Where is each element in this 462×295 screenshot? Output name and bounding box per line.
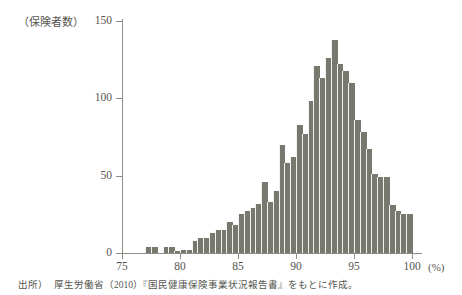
source-note-text: 厚生労働省（2010）『国民健康保険事業状況報告書』をもとに作成。	[54, 280, 358, 290]
x-tick-85	[238, 254, 239, 259]
source-note-label: 出所）	[18, 280, 48, 290]
x-axis-line	[118, 253, 422, 254]
source-note: 出所）厚生労働省（2010）『国民健康保険事業状況報告書』をもとに作成。	[18, 277, 358, 291]
x-axis-unit-label: (%)	[428, 261, 445, 273]
x-tick-100	[412, 254, 413, 259]
histogram-figure: （保険者数） 050100150 7580859095100 (%) 出所）厚生…	[0, 0, 462, 295]
x-tick-label-95: 95	[334, 261, 374, 273]
y-tick-label-50: 50	[70, 170, 112, 182]
x-tick-label-100: 100	[392, 261, 432, 273]
x-tick-95	[354, 254, 355, 259]
x-tick-label-85: 85	[218, 261, 258, 273]
y-tick-label-150: 150	[70, 15, 112, 27]
histogram-bar	[151, 247, 158, 253]
x-tick-75	[122, 254, 123, 259]
x-tick-label-75: 75	[102, 261, 142, 273]
y-tick-label-0: 0	[70, 247, 112, 259]
y-tick-label-100: 100	[70, 92, 112, 104]
plot-area	[122, 21, 418, 253]
x-tick-90	[296, 254, 297, 259]
x-tick-label-80: 80	[160, 261, 200, 273]
x-tick-80	[180, 254, 181, 259]
x-tick-label-90: 90	[276, 261, 316, 273]
histogram-bar	[406, 214, 413, 253]
